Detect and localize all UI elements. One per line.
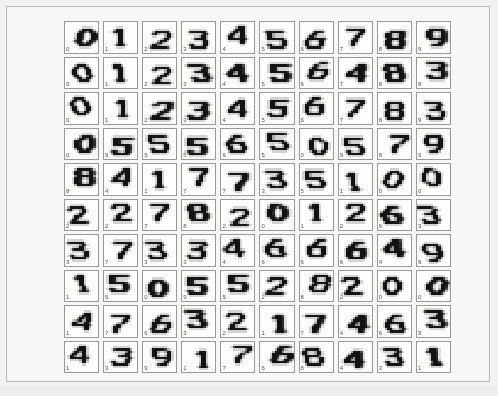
digit-cell: 0 — [377, 163, 412, 196]
digit-bitmap — [300, 235, 333, 266]
digit-bitmap — [378, 93, 411, 124]
digit-bitmap — [260, 342, 293, 373]
digit-cell: 2 — [142, 21, 177, 54]
digit-cell: 7 — [181, 163, 216, 196]
digit-label: 5 — [261, 46, 264, 53]
digit-cell: 8 — [299, 270, 334, 303]
digit-bitmap — [339, 342, 372, 373]
digit-bitmap — [300, 306, 333, 337]
digit-label: 4 — [379, 259, 382, 266]
digit-cell: 5 — [299, 163, 334, 196]
digit-cell: 0 — [64, 128, 99, 161]
digit-cell: 0 — [299, 128, 334, 161]
digit-cell: 6 — [338, 234, 373, 267]
digit-bitmap — [182, 22, 215, 53]
digit-bitmap — [65, 58, 98, 89]
digit-cell: 1 — [338, 163, 373, 196]
digit-cell: 9 — [416, 57, 451, 90]
digit-cell: 9 — [103, 128, 138, 161]
digit-cell: 4 — [377, 234, 412, 267]
digit-bitmap — [339, 200, 372, 231]
digit-label: 1 — [66, 294, 69, 301]
digit-cell: 8 — [377, 128, 412, 161]
digit-bitmap — [260, 271, 293, 302]
digit-cell: 0 — [416, 163, 451, 196]
digit-bitmap — [182, 58, 215, 89]
digit-bitmap — [378, 58, 411, 89]
digit-cell: 3 — [103, 341, 138, 374]
digit-cell: 3 — [259, 163, 294, 196]
digit-bitmap — [417, 306, 450, 337]
digit-cell: 4 — [220, 21, 255, 54]
digit-label: 1 — [105, 81, 108, 88]
digit-bitmap — [378, 200, 411, 231]
digit-cell: 8 — [64, 163, 99, 196]
digit-label: 2 — [144, 46, 147, 53]
digit-bitmap — [260, 306, 293, 337]
digit-label: 3 — [183, 81, 186, 88]
digit-cell: 9 — [142, 341, 177, 374]
digit-bitmap — [260, 93, 293, 124]
digit-cell: 7 — [103, 305, 138, 338]
digit-cell: 8 — [377, 92, 412, 125]
digit-bitmap — [339, 164, 372, 195]
digit-label: 6 — [301, 259, 304, 266]
digit-cell: 3 — [181, 305, 216, 338]
digit-bitmap — [143, 93, 176, 124]
digit-label: 0 — [261, 223, 264, 230]
digit-bitmap — [378, 129, 411, 160]
digit-bitmap — [300, 22, 333, 53]
digit-label: 1 — [261, 330, 264, 337]
digit-bitmap — [182, 235, 215, 266]
digit-label: 7 — [340, 117, 343, 124]
digit-label: 6 — [301, 46, 304, 53]
digit-label: 6 — [340, 259, 343, 266]
digit-cell: 0 — [64, 21, 99, 54]
digit-bitmap — [300, 129, 333, 160]
digit-bitmap — [65, 22, 98, 53]
digit-cell: 9 — [416, 234, 451, 267]
digit-cell: 0 — [142, 270, 177, 303]
digit-label: 6 — [144, 330, 147, 337]
digit-bitmap — [221, 235, 254, 266]
digit-cell: 2 — [259, 270, 294, 303]
digit-bitmap — [65, 271, 98, 302]
digit-label: 6 — [261, 259, 264, 266]
digit-cell: 1 — [299, 199, 334, 232]
digit-label: 5 — [222, 294, 225, 301]
digit-cell: 3 — [181, 234, 216, 267]
digit-label: 3 — [183, 330, 186, 337]
digit-label: 8 — [301, 294, 304, 301]
digit-bitmap — [143, 22, 176, 53]
digit-bitmap — [143, 306, 176, 337]
digit-label: 1 — [418, 365, 421, 372]
digit-bitmap — [221, 306, 254, 337]
digit-label: 0 — [144, 294, 147, 301]
digit-label: 4 — [105, 188, 108, 195]
digit-cell: 7 — [299, 305, 334, 338]
digit-label: 8 — [379, 46, 382, 53]
digit-bitmap — [378, 342, 411, 373]
digit-bitmap — [339, 22, 372, 53]
digit-label: 6 — [379, 330, 382, 337]
digit-label: 8 — [66, 188, 69, 195]
digit-cell: 5 — [142, 128, 177, 161]
digit-cell: 2 — [64, 199, 99, 232]
digit-label: 7 — [144, 223, 147, 230]
digit-bitmap — [339, 235, 372, 266]
digit-bitmap — [182, 93, 215, 124]
digit-bitmap — [378, 306, 411, 337]
digit-cell: 8 — [377, 57, 412, 90]
digit-cell: 6 — [259, 341, 294, 374]
digit-label: 9 — [418, 46, 421, 53]
digit-bitmap — [143, 342, 176, 373]
digit-cell: 9 — [416, 92, 451, 125]
digit-label: 9 — [340, 152, 343, 159]
digit-label: 8 — [183, 223, 186, 230]
digit-cell: 3 — [181, 21, 216, 54]
digit-label: 9 — [418, 117, 421, 124]
digit-label: 0 — [418, 294, 421, 301]
digit-bitmap — [182, 342, 215, 373]
digit-bitmap — [104, 271, 137, 302]
digit-label: 0 — [66, 46, 69, 53]
